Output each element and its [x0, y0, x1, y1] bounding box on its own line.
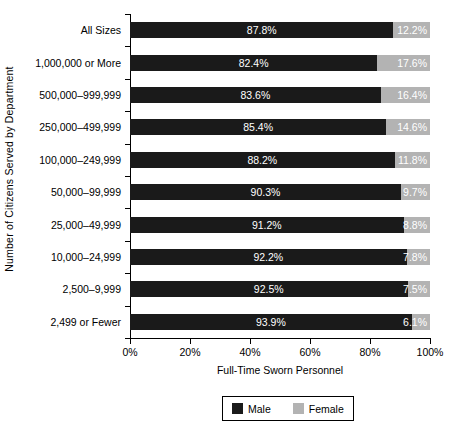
bar-segment-female: 6.1%: [412, 314, 430, 330]
legend-swatch-icon: [232, 403, 243, 414]
y-axis-tick: [125, 273, 130, 274]
x-axis-tick-label: 40%: [239, 346, 260, 358]
x-axis-tick: [370, 339, 371, 344]
x-axis-tick: [130, 339, 131, 344]
y-axis-tick-label: 1,000,000 or More: [35, 55, 121, 71]
legend-entry-male[interactable]: Male: [232, 403, 271, 415]
bar-segment-male: 82.4%: [130, 55, 377, 71]
plot-area: 87.8%12.2%82.4%17.6%83.6%16.4%85.4%14.6%…: [130, 14, 430, 338]
bar-value-label-female: 7.5%: [403, 281, 427, 297]
bar-row: 91.2%8.8%: [130, 217, 430, 233]
x-axis-tick: [310, 339, 311, 344]
y-axis-tick: [125, 14, 130, 15]
legend-label: Female: [309, 403, 344, 415]
bar-value-label-female: 11.8%: [398, 152, 427, 168]
x-axis-tick-label: 80%: [359, 346, 380, 358]
bar-value-label-female: 9.7%: [403, 184, 427, 200]
y-axis-tick-label: 2,499 or Fewer: [50, 314, 121, 330]
bar-segment-female: 16.4%: [381, 87, 430, 103]
y-axis-tick: [125, 241, 130, 242]
y-axis-tick-label: 10,000–24,999: [51, 249, 121, 265]
bar-value-label-male: 88.2%: [130, 152, 395, 168]
bar-segment-female: 17.6%: [377, 55, 430, 71]
y-axis-tick-label: All Sizes: [81, 22, 121, 38]
x-axis-tick-label: 0%: [122, 346, 137, 358]
bar-segment-female: 14.6%: [386, 119, 430, 135]
y-axis-tick: [125, 144, 130, 145]
legend-label: Male: [248, 403, 271, 415]
x-axis-tick: [250, 339, 251, 344]
bar-segment-male: 92.5%: [130, 281, 408, 297]
bar-segment-male: 88.2%: [130, 152, 395, 168]
y-axis-tick-label: 250,000–499,999: [39, 119, 121, 135]
bar-row: 90.3%9.7%: [130, 184, 430, 200]
y-axis-tick-labels: All Sizes1,000,000 or More500,000–999,99…: [18, 14, 126, 338]
legend-swatch-icon: [293, 403, 304, 414]
bar-row: 88.2%11.8%: [130, 152, 430, 168]
bar-segment-female: 12.2%: [393, 22, 430, 38]
bar-value-label-female: 12.2%: [397, 22, 427, 38]
chart-legend: MaleFemale: [222, 396, 354, 421]
bar-row: 85.4%14.6%: [130, 119, 430, 135]
bar-segment-male: 93.9%: [130, 314, 412, 330]
bar-row: 83.6%16.4%: [130, 87, 430, 103]
bar-segment-female: 8.8%: [404, 217, 430, 233]
bar-segment-male: 83.6%: [130, 87, 381, 103]
x-axis-title: Full-Time Sworn Personnel: [130, 364, 430, 376]
bar-value-label-female: 7.8%: [403, 249, 427, 265]
bar-value-label-male: 92.2%: [130, 249, 407, 265]
y-axis-tick-label: 500,000–999,999: [39, 87, 121, 103]
bar-value-label-female: 14.6%: [397, 119, 427, 135]
bar-value-label-male: 91.2%: [130, 217, 404, 233]
bar-row: 92.2%7.8%: [130, 249, 430, 265]
legend-entry-female[interactable]: Female: [293, 403, 344, 415]
y-axis-tick-label: 100,000–249,999: [39, 152, 121, 168]
y-axis-title: Number of Citizens Served by Department: [0, 0, 18, 338]
y-axis-tick-label: 50,000–99,999: [51, 184, 121, 200]
bar-value-label-male: 92.5%: [130, 281, 408, 297]
bar-segment-female: 7.5%: [408, 281, 431, 297]
bar-segment-male: 90.3%: [130, 184, 401, 200]
bar-value-label-female: 8.8%: [403, 217, 427, 233]
y-axis-tick: [125, 208, 130, 209]
bar-segment-male: 92.2%: [130, 249, 407, 265]
y-axis-tick: [125, 111, 130, 112]
bar-value-label-female: 17.6%: [397, 55, 427, 71]
y-axis-title-text: Number of Citizens Served by Department: [3, 66, 15, 271]
x-axis-tick-label: 60%: [299, 346, 320, 358]
bar-segment-male: 85.4%: [130, 119, 386, 135]
bar-row: 93.9%6.1%: [130, 314, 430, 330]
bar-value-label-male: 82.4%: [130, 55, 377, 71]
bar-segment-female: 11.8%: [395, 152, 430, 168]
x-axis-tick: [190, 339, 191, 344]
y-axis-tick: [125, 46, 130, 47]
x-axis-tick-label: 100%: [417, 346, 444, 358]
x-axis-line: [130, 338, 431, 339]
y-axis-tick-label: 2,500–9,999: [63, 281, 121, 297]
bar-row: 87.8%12.2%: [130, 22, 430, 38]
y-axis-tick: [125, 79, 130, 80]
stacked-bar-chart: Number of Citizens Served by Department …: [0, 0, 456, 435]
bar-value-label-female: 6.1%: [403, 314, 427, 330]
y-axis-tick: [125, 176, 130, 177]
bar-value-label-male: 90.3%: [130, 184, 401, 200]
bar-value-label-female: 16.4%: [397, 87, 427, 103]
bar-segment-male: 87.8%: [130, 22, 393, 38]
bar-segment-female: 7.8%: [407, 249, 430, 265]
bar-value-label-male: 87.8%: [130, 22, 393, 38]
bar-row: 82.4%17.6%: [130, 55, 430, 71]
bar-segment-male: 91.2%: [130, 217, 404, 233]
bar-row: 92.5%7.5%: [130, 281, 430, 297]
x-axis-tick-label: 20%: [179, 346, 200, 358]
bar-value-label-male: 93.9%: [130, 314, 412, 330]
bar-value-label-male: 83.6%: [130, 87, 381, 103]
bar-value-label-male: 85.4%: [130, 119, 386, 135]
bar-segment-female: 9.7%: [401, 184, 430, 200]
x-axis-tick: [430, 339, 431, 344]
y-axis-tick-label: 25,000–49,999: [51, 217, 121, 233]
y-axis-tick: [125, 306, 130, 307]
